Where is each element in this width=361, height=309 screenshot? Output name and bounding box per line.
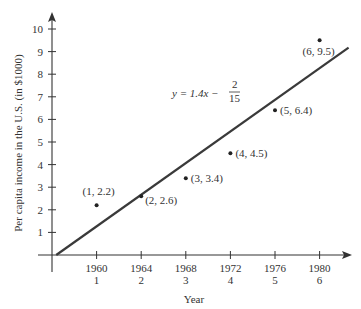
y-tick-label: 9 <box>38 46 44 58</box>
labels: 1960119642196831972419765198061234567891… <box>32 23 335 286</box>
x-tick-year: 1972 <box>219 262 241 274</box>
x-tick-year: 1964 <box>130 262 153 274</box>
regression-line <box>56 48 348 255</box>
y-tick-label: 8 <box>38 68 44 80</box>
equation-denominator: 15 <box>229 92 241 104</box>
x-tick-index: 4 <box>228 274 234 286</box>
ticks <box>48 29 320 259</box>
x-tick-index: 6 <box>317 274 323 286</box>
x-tick-index: 1 <box>94 274 100 286</box>
scatter-chart: 1960119642196831972419765198061234567891… <box>0 0 361 309</box>
equation-numerator: 2 <box>232 78 238 90</box>
x-tick-index: 2 <box>138 274 144 286</box>
data-point-label: (1, 2.2) <box>83 185 115 198</box>
y-tick-label: 10 <box>32 23 44 35</box>
data-point <box>139 194 143 198</box>
x-tick-year: 1968 <box>175 262 198 274</box>
x-tick-year: 1980 <box>309 262 332 274</box>
x-axis-title: Year <box>184 293 205 305</box>
data-point-label: (4, 4.5) <box>235 147 267 160</box>
y-tick-label: 3 <box>38 181 44 193</box>
x-tick-year: 1976 <box>264 262 287 274</box>
data-point-label: (6, 9.5) <box>303 45 335 58</box>
equation-text: y = 1.4x − <box>171 87 219 99</box>
data-point <box>95 203 99 207</box>
y-tick-label: 5 <box>38 136 44 148</box>
regression-line-path <box>56 48 348 255</box>
data-point <box>184 176 188 180</box>
data-point <box>228 151 232 155</box>
x-tick-index: 3 <box>183 274 189 286</box>
data-point <box>318 38 322 42</box>
data-point-label: (5, 6.4) <box>280 104 312 117</box>
y-tick-label: 6 <box>38 113 44 125</box>
y-tick-label: 2 <box>38 204 44 216</box>
x-tick-index: 5 <box>272 274 278 286</box>
x-tick-year: 1960 <box>86 262 109 274</box>
data-point <box>273 108 277 112</box>
y-tick-label: 1 <box>38 226 44 238</box>
y-tick-label: 7 <box>38 91 44 103</box>
y-axis-title: Per capita income in the U.S. (in $1000) <box>12 54 25 232</box>
data-point-label: (3, 3.4) <box>191 172 223 185</box>
y-tick-label: 4 <box>38 159 44 171</box>
data-point-label: (2, 2.6) <box>145 194 177 207</box>
